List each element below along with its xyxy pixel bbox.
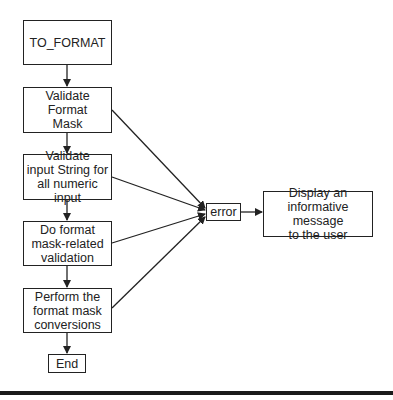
bottom-divider xyxy=(0,391,393,395)
node-end: End xyxy=(48,354,86,373)
arrow-conversions-to-error xyxy=(112,217,205,308)
node-mask-related-validation: Do format mask-related validation xyxy=(23,221,112,266)
node-error: error xyxy=(206,203,241,221)
node-display-message: Display an informative message to the us… xyxy=(263,191,373,237)
node-validate-input-string: Validate input String for all numeric in… xyxy=(23,154,112,200)
arrow-mask-validation-to-error xyxy=(112,214,205,243)
flowchart-canvas: TO_FORMAT Validate Format Mask Validate … xyxy=(0,0,393,400)
node-format-mask-conversions: Perform the format mask conversions xyxy=(23,288,112,333)
node-to-format: TO_FORMAT xyxy=(23,20,112,65)
node-validate-format-mask: Validate Format Mask xyxy=(23,87,112,133)
